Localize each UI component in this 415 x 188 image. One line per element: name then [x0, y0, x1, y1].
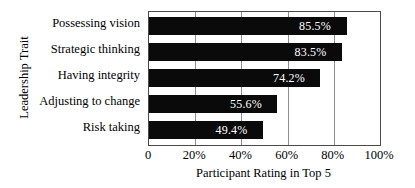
- x-tick-label: 40%: [229, 147, 252, 163]
- x-axis-title: Participant Rating in Top 5: [148, 165, 379, 181]
- bar-value-label: 85.5%: [299, 17, 331, 35]
- x-tick-label: 100%: [364, 147, 393, 163]
- category-label: Possessing vision: [16, 16, 140, 30]
- x-tick-label: 60%: [275, 147, 298, 163]
- category-label: Risk taking: [16, 120, 140, 134]
- category-label: Adjusting to change: [16, 94, 140, 108]
- x-axis-tick-labels: 0 20% 40% 60% 80% 100%: [148, 147, 379, 163]
- bar-value-label: 74.2%: [273, 69, 305, 87]
- x-tick-label: 0: [145, 147, 151, 163]
- plot-area: 85.5% 83.5% 74.2% 55.6% 49.4%: [148, 11, 381, 146]
- x-tick-label: 80%: [321, 147, 344, 163]
- bar-value-label: 83.5%: [295, 43, 327, 61]
- bar-row: 55.6%: [149, 95, 380, 113]
- bar-value-label: 49.4%: [216, 121, 248, 139]
- bar-row: 74.2%: [149, 69, 380, 87]
- bar-row: 83.5%: [149, 43, 380, 61]
- bars-layer: 85.5% 83.5% 74.2% 55.6% 49.4%: [149, 12, 380, 145]
- bar-chart: Leadership Trait Possessing vision Strat…: [0, 0, 415, 188]
- bar-row: 49.4%: [149, 121, 380, 139]
- category-label: Strategic thinking: [16, 42, 140, 56]
- category-label: Having integrity: [16, 68, 140, 82]
- bar-row: 85.5%: [149, 17, 380, 35]
- y-axis-category-labels: Possessing vision Strategic thinking Hav…: [18, 11, 144, 144]
- bar-value-label: 55.6%: [230, 95, 262, 113]
- x-tick-label: 20%: [183, 147, 206, 163]
